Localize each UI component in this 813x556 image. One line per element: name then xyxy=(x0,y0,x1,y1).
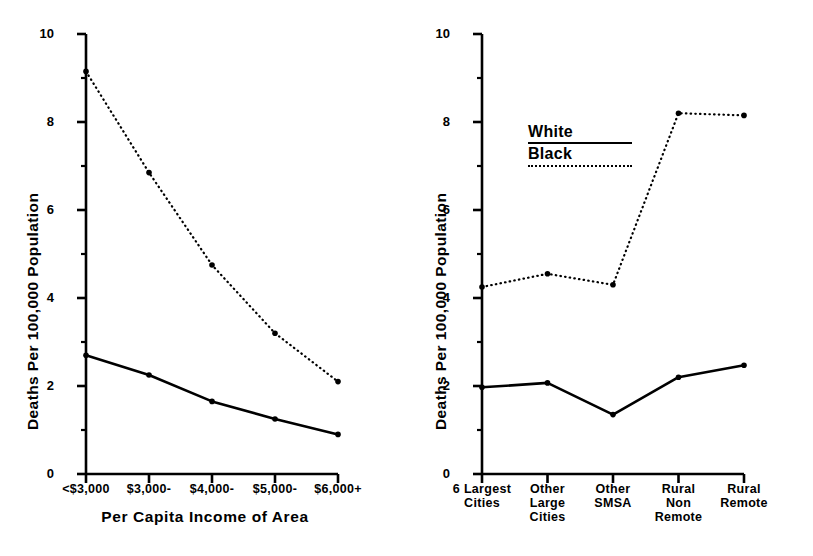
data-point-white xyxy=(676,374,682,380)
data-point-black xyxy=(335,379,341,385)
data-point-black xyxy=(741,113,747,119)
data-point-black xyxy=(146,170,152,176)
left-x-axis-title: Per Capita Income of Area xyxy=(0,508,410,526)
series-line-black xyxy=(86,71,338,381)
legend-swatch-dotted-line xyxy=(528,165,632,167)
chart-panel-right xyxy=(410,0,813,556)
y-tick-label: 2 xyxy=(424,378,450,393)
legend: White Black xyxy=(528,124,632,167)
figure-two-panel-line-charts: Deaths Per 100,000 Population Per Capita… xyxy=(0,0,813,556)
data-point-black xyxy=(272,330,278,336)
data-point-black xyxy=(676,110,682,116)
chart-panel-left: Deaths Per 100,000 Population Per Capita… xyxy=(0,0,410,556)
data-point-white xyxy=(479,385,485,391)
y-tick-label: 4 xyxy=(424,290,450,305)
legend-label-black: Black xyxy=(528,146,632,163)
y-tick-label: 10 xyxy=(28,26,54,41)
data-point-white xyxy=(209,399,215,405)
y-tick-label: 4 xyxy=(28,290,54,305)
y-tick-label: 8 xyxy=(28,114,54,129)
y-tick-label: 0 xyxy=(28,466,54,481)
data-point-white xyxy=(335,432,341,438)
data-point-black xyxy=(610,282,616,288)
y-tick-label: 6 xyxy=(424,202,450,217)
series-line-white xyxy=(86,355,338,434)
data-point-white xyxy=(146,372,152,378)
y-tick-label: 8 xyxy=(424,114,450,129)
legend-label-white: White xyxy=(528,124,632,141)
x-tick-label: $6,000+ xyxy=(294,482,382,496)
left-y-axis-title: Deaths Per 100,000 Population xyxy=(24,193,42,430)
data-point-white xyxy=(545,380,551,386)
data-point-black xyxy=(545,271,551,277)
data-point-white xyxy=(610,412,616,418)
data-point-black xyxy=(479,284,485,290)
y-tick-label: 6 xyxy=(28,202,54,217)
data-point-black xyxy=(209,262,215,268)
data-point-white xyxy=(741,363,747,369)
y-tick-label: 0 xyxy=(424,466,450,481)
left-chart-plot xyxy=(0,0,410,556)
y-tick-label: 10 xyxy=(424,26,450,41)
legend-swatch-solid-line xyxy=(528,142,632,144)
series-line-white xyxy=(482,365,744,414)
right-y-axis-title: Deaths Per 100,000 Population xyxy=(432,193,450,430)
data-point-black xyxy=(83,69,89,75)
x-tick-label: RuralRemote xyxy=(700,482,788,510)
data-point-white xyxy=(83,352,89,358)
right-chart-plot xyxy=(410,0,813,556)
y-tick-label: 2 xyxy=(28,378,54,393)
data-point-white xyxy=(272,416,278,422)
